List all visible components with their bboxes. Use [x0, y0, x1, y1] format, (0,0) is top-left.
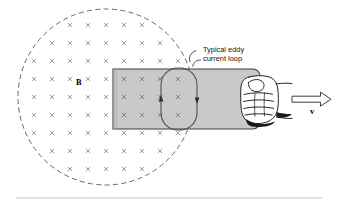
thumb — [248, 80, 264, 92]
metal-plate — [113, 69, 260, 129]
figure-root: Typical eddy current loop B — [0, 0, 338, 204]
plate-edge-shading — [114, 70, 118, 129]
figure-canvas: Typical eddy current loop B — [0, 0, 338, 204]
callout-line-2: current loop — [203, 54, 242, 63]
callout-line-1: Typical eddy — [203, 45, 244, 54]
field-label-B: B — [76, 78, 82, 87]
